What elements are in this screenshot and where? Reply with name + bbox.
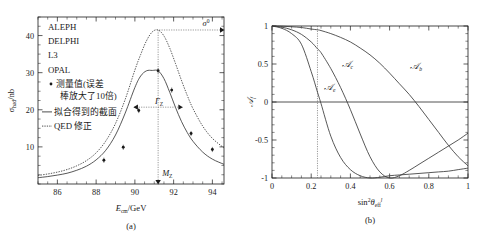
- panel-b-y-axis-label: 𝒜f: [245, 96, 256, 107]
- panel-b-x-tick-label: 0.2: [306, 182, 316, 191]
- panel-a-y-tick-label: 20: [26, 106, 34, 115]
- sigma0-label: σ0: [203, 18, 210, 28]
- panel-a-x-tick-label: 88: [92, 188, 100, 197]
- legend-experiment-opal: OPAL: [48, 65, 70, 75]
- panel-a-x-axis-label: Ecm/GeV: [115, 203, 148, 214]
- panel-b-caption: (b): [365, 215, 375, 225]
- panel-b-y-tick-label: 0: [264, 98, 268, 107]
- figure-container: 10203040 8688909294 σ0MZΓZ ALEPHDELPHIL3…: [0, 0, 483, 232]
- legend-experiment-delphi: DELPHI: [48, 36, 79, 46]
- panel-b-x-ticks: 00.20.40.60.81: [270, 26, 470, 191]
- legend-experiment-aleph: ALEPH: [48, 22, 77, 32]
- legend-fit-label: 拟合得到的截面: [54, 106, 117, 117]
- panel-b-y-tick-label: -0.5: [255, 136, 268, 145]
- panel-b-x-tick-label: 0: [270, 182, 274, 191]
- panel-b-x-tick-label: 0.8: [424, 182, 434, 191]
- legend-experiment-l3: L3: [48, 50, 58, 60]
- panel-a-annotations: σ0MZΓZ: [133, 18, 224, 184]
- panel-b-curve-label: 𝒜c: [342, 59, 354, 70]
- panel-a-x-tick-label: 92: [170, 188, 178, 197]
- panel-b-x-tick-label: 0.6: [384, 182, 394, 191]
- panel-b-svg: -1-0.500.51 00.20.40.60.81 𝒜e𝒜c𝒜b sin2θe…: [240, 0, 483, 232]
- panel-a-svg: 10203040 8688909294 σ0MZΓZ ALEPHDELPHIL3…: [0, 0, 240, 232]
- panel-b-curve-labels: 𝒜e𝒜c𝒜b: [324, 59, 422, 93]
- panel-b-axis-labels: sin2θeffl𝒜f(b): [245, 96, 383, 225]
- panel-a-y-tick-label: 10: [26, 143, 34, 152]
- legend-qed-label: QED 修正: [54, 120, 92, 131]
- panel-a-y-axis-label: σhad/nb: [6, 89, 17, 112]
- panel-b-x-tick-label: 1: [466, 182, 470, 191]
- gammaz-label: ΓZ: [154, 97, 164, 107]
- panel-b-curve-label: 𝒜b: [410, 61, 422, 72]
- panel-a-legend: ALEPHDELPHIL3OPAL测量值(误差棒放大了10倍)拟合得到的截面QE…: [42, 22, 117, 131]
- panel-a-y-tick-label: 30: [26, 69, 34, 78]
- panel-a-curves: [38, 30, 224, 178]
- panel-a-caption: (a): [126, 221, 136, 231]
- panel-b-curve: [272, 26, 468, 166]
- legend-measured-label-2: 棒放大了10倍): [60, 90, 117, 101]
- panel-b-curve-label: 𝒜e: [324, 82, 336, 93]
- legend-measured-label: 测量值(误差: [56, 78, 104, 89]
- legend-point-marker: [50, 83, 53, 86]
- panel-a-z-resonance: 10203040 8688909294 σ0MZΓZ ALEPHDELPHIL3…: [0, 0, 240, 232]
- panel-b-y-ticks: -1-0.500.51: [255, 22, 468, 183]
- panel-a-y-tick-label: 40: [26, 32, 34, 41]
- panel-b-x-axis-label: sin2θeffl: [358, 197, 383, 209]
- panel-a-curve: [38, 30, 224, 176]
- panel-b-x-tick-label: 0.4: [345, 182, 355, 191]
- panel-b-y-tick-label: 0.5: [258, 60, 268, 69]
- panel-b-asymmetries: -1-0.500.51 00.20.40.60.81 𝒜e𝒜c𝒜b sin2θe…: [240, 0, 483, 232]
- panel-b-y-tick-label: -1: [261, 174, 268, 183]
- panel-a-x-tick-label: 90: [131, 188, 139, 197]
- panel-b-y-tick-label: 1: [264, 22, 268, 31]
- panel-a-x-tick-label: 86: [53, 188, 61, 197]
- panel-b-guides: [272, 26, 468, 178]
- mz-label: MZ: [161, 169, 173, 179]
- panel-a-x-tick-label: 94: [208, 188, 216, 197]
